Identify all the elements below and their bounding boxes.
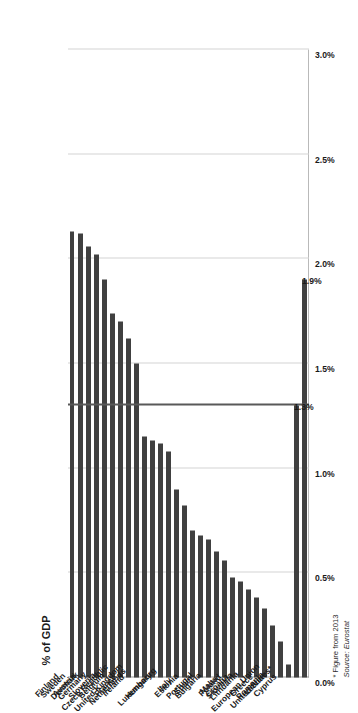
bar <box>102 279 107 677</box>
bar <box>286 664 291 677</box>
value-axis-title: % of GDP <box>40 615 52 665</box>
benchmark-line <box>68 403 309 405</box>
bar <box>294 405 299 677</box>
bar <box>166 451 171 677</box>
footnote-line-2: Source: Eurostat <box>341 614 352 677</box>
bar <box>134 363 139 677</box>
bar <box>302 279 307 677</box>
bar <box>278 641 283 677</box>
bar <box>70 231 75 677</box>
bar <box>118 321 123 677</box>
bar <box>78 233 83 677</box>
bar <box>126 338 131 677</box>
bar <box>230 577 235 677</box>
bar <box>222 560 227 677</box>
value-tick-label: 2.5% <box>315 154 335 164</box>
bar <box>110 313 115 677</box>
footnote: * Figure from 2013 Source: Eurostat <box>330 614 352 677</box>
value-tick-label: 1.5% <box>315 363 335 373</box>
bar <box>198 535 203 677</box>
bar-series <box>68 49 309 677</box>
bar <box>150 440 155 677</box>
bar <box>214 551 219 677</box>
bar <box>174 489 179 677</box>
bar <box>238 581 243 677</box>
bar <box>190 530 195 677</box>
plot-area <box>68 49 309 677</box>
value-tick-label: 0.0% <box>315 677 335 687</box>
value-tick-label: 2.0% <box>315 258 335 268</box>
value-tick-label: 1.0% <box>315 468 335 478</box>
footnote-line-1: * Figure from 2013 <box>330 614 341 677</box>
value-tick-label: 3.0% <box>315 49 335 59</box>
bar <box>158 443 163 677</box>
bar <box>94 254 99 677</box>
bar <box>206 539 211 677</box>
data-label: 1.9% <box>302 275 322 285</box>
bar <box>142 436 147 677</box>
data-label: 1.3% <box>294 401 314 411</box>
bar <box>86 246 91 677</box>
value-tick-label: 0.5% <box>315 572 335 582</box>
bar <box>182 505 187 677</box>
